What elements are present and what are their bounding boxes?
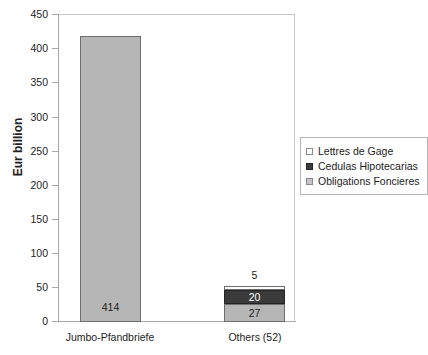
y-tick-mark-200	[52, 185, 58, 186]
legend-label-obligations-foncieres: Obligations Foncieres	[318, 176, 420, 187]
y-tick-mark-350	[52, 82, 58, 83]
y-tick-mark-100	[52, 253, 58, 254]
y-tick-label-250: 250	[8, 146, 48, 156]
y-tick-mark-400	[52, 48, 58, 49]
y-tick-mark-250	[52, 151, 58, 152]
legend-label-cedulas-hipotecarias: Cedulas Hipotecarias	[318, 161, 418, 172]
legend-item-cedulas-hipotecarias[interactable]: Cedulas Hipotecarias	[306, 159, 423, 173]
y-tick-label-150: 150	[8, 214, 48, 224]
y-tick-label-0: 0	[8, 316, 48, 326]
y-tick-label-450: 450	[8, 9, 48, 19]
y-tick-label-50: 50	[8, 282, 48, 292]
bar-value-others-bottom: 27	[225, 308, 284, 319]
bar-segment-cedulas-hipotecarias[interactable]: 20	[224, 290, 285, 304]
y-tick-label-300: 300	[8, 112, 48, 122]
y-tick-mark-50	[52, 287, 58, 288]
bar-value-jumbo-total: 414	[81, 302, 140, 313]
legend: Lettres de Gage Cedulas Hipotecarias Obl…	[300, 137, 428, 195]
y-tick-mark-450	[52, 14, 58, 15]
legend-swatch-icon-lettres-de-gage	[306, 148, 313, 155]
bar-value-others-top: 5	[224, 270, 285, 281]
x-axis-label-jumbo-pfandbriefe: Jumbo-Pfandbriefe	[45, 331, 175, 343]
legend-item-lettres-de-gage[interactable]: Lettres de Gage	[306, 144, 423, 158]
legend-swatch-icon-obligations-foncieres	[306, 178, 313, 185]
bar-jumbo-pfandbriefe[interactable]: 414	[80, 36, 141, 322]
legend-label-lettres-de-gage: Lettres de Gage	[318, 146, 393, 157]
y-tick-mark-300	[52, 117, 58, 118]
legend-item-obligations-foncieres[interactable]: Obligations Foncieres	[306, 174, 423, 188]
bar-segment-obligations-foncieres[interactable]: 27	[224, 304, 285, 322]
y-axis-line	[58, 14, 59, 322]
y-tick-mark-150	[52, 219, 58, 220]
y-tick-label-200: 200	[8, 180, 48, 190]
bar-others[interactable]: 20 27	[224, 286, 285, 322]
bar-value-others-middle: 20	[225, 292, 284, 303]
legend-swatch-icon-cedulas-hipotecarias	[306, 163, 313, 170]
y-tick-label-350: 350	[8, 77, 48, 87]
y-tick-mark-0	[52, 321, 58, 322]
y-tick-label-400: 400	[8, 43, 48, 53]
x-axis-label-others: Others (52)	[190, 331, 320, 343]
y-tick-label-100: 100	[8, 248, 48, 258]
